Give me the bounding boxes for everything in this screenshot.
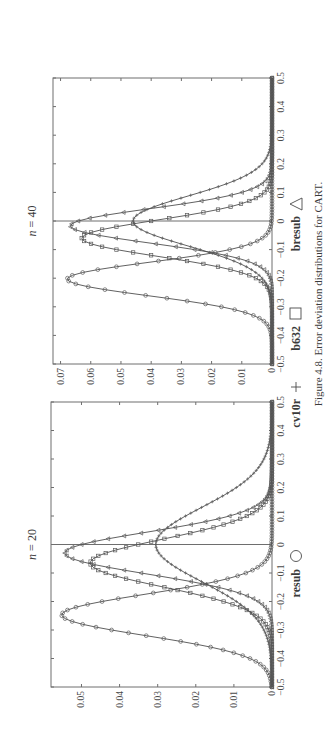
x-tick-label: 0.2 — [276, 481, 286, 493]
y-tick-label: 0.07 — [56, 368, 66, 385]
y-axis: 00.010.020.030.040.050.060.07 — [56, 78, 277, 385]
y-tick-label: 0 — [267, 691, 277, 696]
x-axis: −0.5−0.4−0.3−0.2−0.100.10.20.30.40.5 — [53, 72, 286, 373]
x-tick-label: 0.4 — [276, 424, 286, 436]
x-axis: −0.5−0.4−0.3−0.2−0.100.10.20.30.40.5 — [51, 396, 286, 696]
x-tick-label: 0.1 — [276, 186, 286, 198]
x-tick-label: 0.3 — [276, 453, 286, 465]
chart-title: n = 20 — [25, 529, 39, 560]
y-tick-label: 0.05 — [116, 368, 126, 385]
x-tick-label: 0 — [276, 218, 286, 223]
x-tick-label: −0.4 — [276, 650, 286, 667]
plus-marker-icon — [291, 382, 301, 392]
y-tick-label: 0.05 — [76, 691, 86, 708]
legend-item-bresub: bresub — [289, 198, 303, 251]
y-tick-label: 0.06 — [86, 368, 96, 385]
x-tick-label: −0.4 — [276, 327, 286, 344]
circle-marker-icon — [291, 551, 302, 562]
y-tick-label: 0.02 — [191, 691, 201, 708]
x-tick-label: 0.3 — [276, 129, 286, 141]
x-tick-label: 0.4 — [276, 100, 286, 112]
x-tick-label: 0.1 — [276, 510, 286, 522]
y-tick-label: 0.02 — [207, 368, 217, 385]
x-tick-label: −0.1 — [276, 241, 286, 258]
figure-canvas: −0.5−0.4−0.3−0.2−0.100.10.20.30.40.500.0… — [0, 0, 334, 744]
legend: resub cv10r b632 bresub — [289, 198, 303, 597]
legend-item-resub: resub — [289, 551, 303, 598]
figure-container: −0.5−0.4−0.3−0.2−0.100.10.20.30.40.500.0… — [0, 0, 334, 744]
x-tick-label: 0.5 — [276, 396, 286, 408]
chart-panel-n40: −0.5−0.4−0.3−0.2−0.100.10.20.30.40.500.0… — [25, 72, 286, 385]
x-tick-label: −0.5 — [276, 678, 286, 695]
x-tick-label: −0.2 — [276, 593, 286, 610]
y-tick-label: 0.01 — [237, 368, 247, 385]
x-tick-label: −0.3 — [276, 298, 286, 315]
y-tick-label: 0.03 — [176, 368, 186, 385]
legend-label-cv10r: cv10r — [289, 398, 303, 427]
legend-label-b632: b632 — [289, 326, 303, 351]
x-tick-label: −0.3 — [276, 621, 286, 638]
square-marker-icon — [290, 308, 301, 319]
y-tick-label: 0 — [267, 368, 277, 373]
legend-item-b632: b632 — [289, 308, 303, 351]
y-tick-label: 0.04 — [115, 691, 125, 708]
x-tick-label: −0.5 — [276, 355, 286, 372]
x-tick-label: −0.1 — [276, 564, 286, 581]
y-tick-label: 0.04 — [146, 368, 156, 385]
y-tick-label: 0.01 — [229, 691, 239, 708]
figure-caption: Figure 4.8. Error deviation distribution… — [312, 182, 324, 407]
chart-title: n = 40 — [25, 206, 39, 237]
legend-label-resub: resub — [289, 569, 303, 598]
x-tick-label: 0.2 — [276, 158, 286, 170]
legend-label-bresub: bresub — [289, 216, 303, 251]
x-tick-label: 0.5 — [276, 72, 286, 84]
x-tick-label: −0.2 — [276, 269, 286, 286]
triangle-marker-icon — [290, 198, 302, 210]
y-tick-label: 0.03 — [153, 691, 163, 708]
chart-panel-n20: −0.5−0.4−0.3−0.2−0.100.10.20.30.40.500.0… — [25, 396, 286, 708]
x-tick-label: 0 — [276, 542, 286, 547]
legend-item-cv10r: cv10r — [289, 382, 303, 428]
